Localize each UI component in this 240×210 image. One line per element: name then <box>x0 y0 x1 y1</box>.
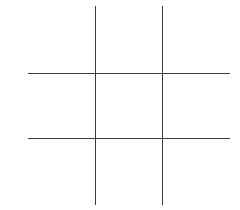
cell-1-2[interactable] <box>163 74 230 138</box>
cell-0-2[interactable] <box>163 6 230 73</box>
cell-2-2[interactable] <box>163 139 230 205</box>
cell-2-0[interactable] <box>28 139 95 205</box>
cell-1-0[interactable] <box>28 74 95 138</box>
cell-0-1[interactable] <box>96 6 162 73</box>
cell-2-1[interactable] <box>96 139 162 205</box>
tic-tac-toe-board <box>0 0 240 210</box>
cell-0-0[interactable] <box>28 6 95 73</box>
cell-1-1[interactable] <box>96 74 162 138</box>
